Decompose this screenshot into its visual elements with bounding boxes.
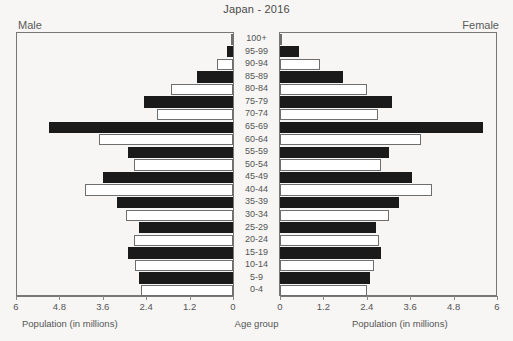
male-plot-panel [16, 32, 233, 296]
female-bar-row [280, 247, 496, 260]
age-group-label: 50-54 [234, 158, 279, 171]
male-side-label: Male [18, 19, 42, 31]
x-axis-tick-label: 6 [482, 301, 512, 312]
female-bar-row [280, 83, 496, 96]
x-axis-tick [323, 296, 324, 300]
age-group-label: 70-74 [234, 107, 279, 120]
female-bar [280, 285, 367, 296]
x-axis-tick [280, 296, 281, 300]
x-axis-tick [59, 296, 60, 300]
male-bar-row [17, 209, 233, 222]
age-group-label: 60-64 [234, 133, 279, 146]
x-axis-tick-label: 4.8 [439, 301, 469, 312]
x-axis-tick-label: 6 [1, 301, 31, 312]
male-bar [134, 159, 233, 170]
male-bar-row [17, 247, 233, 260]
male-x-axis [16, 296, 233, 297]
chart-title: Japan - 2016 [0, 3, 513, 15]
female-side-label: Female [462, 19, 499, 31]
age-group-label: 10-14 [234, 258, 279, 271]
female-bar-rows [280, 33, 496, 295]
female-bar [280, 96, 392, 107]
age-group-label: 80-84 [234, 82, 279, 95]
male-bar [128, 147, 233, 158]
female-bar [280, 235, 379, 246]
female-bar-row [280, 184, 496, 197]
female-bar-row [280, 96, 496, 109]
x-axis-tick-label: 3.6 [88, 301, 118, 312]
x-axis-tick-label: 1.2 [308, 301, 338, 312]
male-bar-row [17, 234, 233, 247]
male-bar [49, 122, 233, 133]
female-bar [280, 122, 483, 133]
x-axis-tick [367, 296, 368, 300]
female-bar [280, 46, 299, 57]
male-bar-row [17, 159, 233, 172]
age-group-label: 20-24 [234, 233, 279, 246]
female-bar-row [280, 58, 496, 71]
male-bar-row [17, 71, 233, 84]
female-bar-row [280, 196, 496, 209]
male-bar [134, 235, 233, 246]
age-group-label: 85-89 [234, 70, 279, 83]
male-bar-row [17, 272, 233, 285]
female-bar-row [280, 134, 496, 147]
female-bar [280, 260, 374, 271]
age-group-label: 90-94 [234, 57, 279, 70]
age-group-label: 100+ [234, 32, 279, 45]
male-bar [144, 96, 233, 107]
age-group-label: 15-19 [234, 246, 279, 259]
male-bar [197, 71, 233, 82]
male-bar [217, 59, 233, 70]
male-bar-row [17, 146, 233, 159]
female-bar [280, 59, 320, 70]
x-axis-tick-label: 2.4 [131, 301, 161, 312]
x-axis-tick-label: 4.8 [44, 301, 74, 312]
male-bar-row [17, 259, 233, 272]
age-group-label: 35-39 [234, 195, 279, 208]
female-bar-row [280, 33, 496, 46]
x-axis-tick-label: 0 [218, 301, 248, 312]
female-bar-row [280, 121, 496, 134]
x-axis-tick-label: 0 [265, 301, 295, 312]
female-axis-title: Population (in millions) [352, 318, 448, 329]
female-bar-row [280, 259, 496, 272]
male-bar-row [17, 96, 233, 109]
female-bar [280, 272, 370, 283]
age-group-label: 0-4 [234, 283, 279, 296]
x-axis-tick [146, 296, 147, 300]
x-axis-tick [190, 296, 191, 300]
age-group-label: 45-49 [234, 170, 279, 183]
male-bar-row [17, 121, 233, 134]
male-bar [99, 134, 233, 145]
male-bar [139, 222, 233, 233]
x-axis-tick [410, 296, 411, 300]
male-bar-row [17, 171, 233, 184]
male-bar-row [17, 222, 233, 235]
female-bar-row [280, 159, 496, 172]
age-group-label: 75-79 [234, 95, 279, 108]
male-bar-row [17, 46, 233, 59]
male-bar-rows [17, 33, 233, 295]
age-group-label: 55-59 [234, 145, 279, 158]
female-bar [280, 210, 389, 221]
x-axis-tick [233, 296, 234, 300]
age-group-label: 65-69 [234, 120, 279, 133]
male-bar-row [17, 33, 233, 46]
female-bar [280, 147, 389, 158]
female-bar-row [280, 222, 496, 235]
female-bar-row [280, 209, 496, 222]
population-pyramid-chart: Japan - 2016 Male Female 100+95-9990-948… [0, 0, 513, 341]
male-bar-row [17, 184, 233, 197]
age-group-label: 25-29 [234, 221, 279, 234]
x-axis-tick-label: 3.6 [395, 301, 425, 312]
x-axis-tick [497, 296, 498, 300]
male-bar [171, 84, 233, 95]
male-bar [103, 172, 233, 183]
male-bar-row [17, 83, 233, 96]
age-group-label: 30-34 [234, 208, 279, 221]
female-bar [280, 222, 376, 233]
female-bar-row [280, 108, 496, 121]
male-bar-row [17, 196, 233, 209]
male-bar [85, 184, 233, 195]
